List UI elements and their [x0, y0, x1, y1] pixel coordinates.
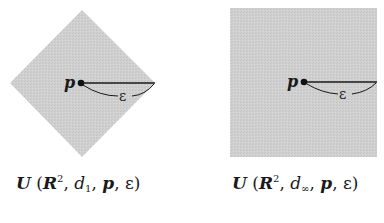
caption-radius: ε — [343, 173, 352, 193]
caption-paren-open: ( — [247, 173, 259, 193]
dinf-center-point — [301, 79, 308, 86]
caption-point: p — [320, 173, 332, 193]
caption-radius: ε — [125, 173, 134, 193]
metric-balls-figure: p ε p ε U (R2, d1, p, ε) U (R2, d∞, p, ε… — [0, 0, 384, 223]
caption-func: U — [16, 173, 31, 193]
caption-metric: d — [74, 173, 85, 193]
caption-metric: d — [290, 173, 301, 193]
caption-paren-close: ) — [134, 173, 141, 193]
caption-comma: , — [332, 173, 343, 193]
caption-space: R — [43, 173, 57, 193]
caption-comma: , — [114, 173, 125, 193]
d1-center-point — [78, 80, 85, 87]
d1-ball-caption: U (R2, d1, p, ε) — [16, 173, 140, 194]
dinf-point-label: p — [287, 72, 298, 91]
caption-func: U — [232, 173, 247, 193]
caption-point: p — [102, 173, 114, 193]
caption-comma: , — [63, 173, 74, 193]
d1-radius-label: ε — [119, 88, 126, 104]
dinf-ball-caption: U (R2, d∞, p, ε) — [232, 173, 358, 194]
caption-comma: , — [91, 173, 102, 193]
caption-comma: , — [279, 173, 290, 193]
caption-comma: , — [309, 173, 320, 193]
d1-point-label: p — [64, 73, 75, 92]
dinf-radius-label: ε — [339, 86, 346, 102]
caption-space: R — [259, 173, 273, 193]
caption-paren-close: ) — [352, 173, 359, 193]
caption-paren-open: ( — [31, 173, 43, 193]
